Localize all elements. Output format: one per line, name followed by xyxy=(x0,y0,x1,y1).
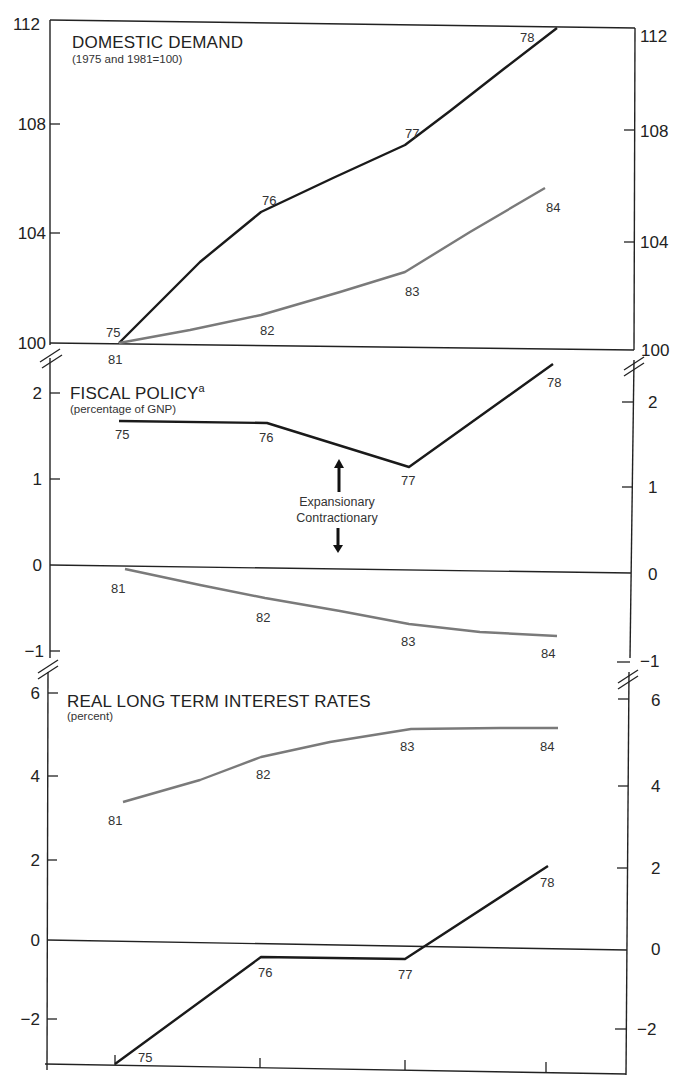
label-interest-83: 83 xyxy=(400,739,414,754)
line-demand-1975-78 xyxy=(119,28,557,343)
tick-right-100: 100 xyxy=(641,341,669,360)
line-interest-1975-78 xyxy=(115,866,548,1064)
panel-subtitle-fiscal-policy: (percentage of GNP) xyxy=(70,403,176,415)
line-interest-1981-84 xyxy=(123,728,558,802)
label-fiscal-76: 76 xyxy=(259,430,273,445)
tick-right-112: 112 xyxy=(640,27,667,46)
label-demand-81: 81 xyxy=(108,352,122,367)
tick-right-1: 1 xyxy=(648,478,657,497)
label-demand-84: 84 xyxy=(546,200,560,215)
tick-left-108: 108 xyxy=(18,115,46,134)
label-fiscal-81: 81 xyxy=(111,581,125,596)
tick-right-0b: 0 xyxy=(651,940,660,959)
baseline-100 xyxy=(50,343,634,350)
panel-title-domestic-demand: DOMESTIC DEMAND xyxy=(72,33,243,52)
line-demand-1981-84 xyxy=(119,188,545,343)
panel-title-interest-rates: REAL LONG TERM INTEREST RATES xyxy=(67,692,371,711)
tick-right-neg1: −1 xyxy=(640,652,659,671)
top-border xyxy=(50,20,635,28)
tick-right-neg2: −2 xyxy=(637,1020,656,1039)
tick-left-2b: 2 xyxy=(31,851,40,870)
footnote-marker: a xyxy=(199,382,206,394)
arrow-up-icon xyxy=(334,459,344,492)
panel-subtitle-domestic-demand: (1975 and 1981=100) xyxy=(72,53,182,65)
right-axis-interest xyxy=(626,672,629,1075)
tick-left-104: 104 xyxy=(18,224,46,243)
panel-interest-rates: REAL LONG TERM INTEREST RATES (percent) … xyxy=(67,692,558,1065)
tick-right-0: 0 xyxy=(648,565,657,584)
tick-right-2b: 2 xyxy=(651,859,660,878)
tick-marks xyxy=(47,124,634,1072)
left-axis-interest xyxy=(47,672,48,1070)
tick-left-112: 112 xyxy=(13,15,40,34)
label-demand-78: 78 xyxy=(520,30,534,45)
tick-left-0: 0 xyxy=(33,556,42,575)
right-axis-demand xyxy=(634,28,635,350)
label-demand-77: 77 xyxy=(405,126,419,141)
line-fiscal-1981-84 xyxy=(125,569,557,636)
line-fiscal-1975-78 xyxy=(119,364,553,467)
tick-left-6: 6 xyxy=(31,684,40,703)
tick-left-100: 100 xyxy=(18,334,46,353)
tick-right-4: 4 xyxy=(651,777,660,796)
label-fiscal-83: 83 xyxy=(401,634,415,649)
label-fiscal-75: 75 xyxy=(115,427,129,442)
panel-domestic-demand: DOMESTIC DEMAND (1975 and 1981=100) 75 7… xyxy=(72,28,560,367)
panel-title-fiscal-policy: FISCAL POLICYa xyxy=(70,382,206,403)
tick-left-1: 1 xyxy=(33,470,42,489)
label-expansionary: Expansionary xyxy=(299,495,375,509)
label-fiscal-82: 82 xyxy=(256,610,270,625)
label-interest-75: 75 xyxy=(138,1050,152,1065)
label-demand-83: 83 xyxy=(405,284,419,299)
tick-left-2: 2 xyxy=(33,384,42,403)
right-axis-fiscal xyxy=(630,360,634,658)
label-fiscal-78: 78 xyxy=(547,375,561,390)
three-panel-line-chart: 112 108 104 100 2 1 0 −1 6 4 2 0 −2 112 … xyxy=(0,0,684,1085)
y-tick-labels-right: 112 108 104 100 2 1 0 −1 6 4 2 0 −2 xyxy=(637,27,669,1039)
label-demand-76: 76 xyxy=(262,193,276,208)
tick-right-104: 104 xyxy=(640,233,668,252)
label-interest-84: 84 xyxy=(540,739,554,754)
tick-right-108: 108 xyxy=(640,122,668,141)
tick-left-neg2: −2 xyxy=(21,1010,40,1029)
tick-left-0b: 0 xyxy=(31,931,40,950)
arrow-down-icon xyxy=(333,528,343,553)
label-contractionary: Contractionary xyxy=(296,511,378,525)
tick-right-6: 6 xyxy=(651,691,660,710)
zero-line-interest xyxy=(47,940,627,950)
tick-left-neg1: −1 xyxy=(25,642,44,661)
label-demand-75: 75 xyxy=(106,325,120,340)
label-fiscal-77: 77 xyxy=(401,473,415,488)
label-interest-82: 82 xyxy=(256,767,270,782)
y-tick-labels-left: 112 108 104 100 2 1 0 −1 6 4 2 0 −2 xyxy=(13,15,46,1029)
bottom-border xyxy=(45,1064,626,1074)
label-interest-81: 81 xyxy=(108,813,122,828)
label-interest-77: 77 xyxy=(398,967,412,982)
label-interest-78: 78 xyxy=(540,875,554,890)
label-interest-76: 76 xyxy=(258,965,272,980)
label-demand-82: 82 xyxy=(260,323,274,338)
panel-subtitle-interest-rates: (percent) xyxy=(67,710,113,722)
tick-left-4: 4 xyxy=(31,767,40,786)
tick-right-2: 2 xyxy=(648,393,657,412)
panel-fiscal-policy: FISCAL POLICYa (percentage of GNP) 75 76… xyxy=(70,364,561,661)
label-fiscal-84: 84 xyxy=(541,646,555,661)
